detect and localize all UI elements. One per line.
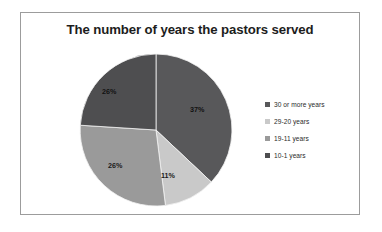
- legend-swatch-icon: [265, 119, 270, 124]
- pie-chart-plot-area: 37% 11% 26% 26%: [77, 51, 237, 206]
- legend-label: 29-20 years: [274, 118, 309, 125]
- pie-chart-svg: [77, 51, 235, 209]
- legend-item-19-11-years[interactable]: 19-11 years: [265, 131, 357, 146]
- legend-swatch-icon: [265, 136, 270, 141]
- legend-item-10-1-years[interactable]: 10-1 years: [265, 148, 357, 163]
- pie-slice-10-1-years[interactable]: [80, 54, 156, 130]
- pie-slice-label-19-11-years: 26%: [108, 161, 122, 170]
- pie-slice-label-29-20-years: 11%: [161, 171, 175, 180]
- legend-item-29-20-years[interactable]: 29-20 years: [265, 114, 357, 129]
- pie-slice-label-10-1-years: 26%: [102, 87, 116, 96]
- legend-swatch-icon: [265, 153, 270, 158]
- chart-title: The number of years the pastors served: [21, 22, 359, 37]
- legend-item-30-or-more-years[interactable]: 30 or more years: [265, 97, 357, 112]
- pie-slice-19-11-years[interactable]: [80, 125, 165, 206]
- legend-swatch-icon: [265, 102, 270, 107]
- legend-label: 30 or more years: [274, 101, 325, 108]
- chart-legend: 30 or more years 29-20 years 19-11 years…: [265, 97, 357, 165]
- pie-slice-label-30-or-more-years: 37%: [190, 105, 204, 114]
- legend-label: 10-1 years: [274, 152, 306, 159]
- chart-frame: The number of years the pastors served 3…: [20, 12, 360, 215]
- legend-label: 19-11 years: [274, 135, 309, 142]
